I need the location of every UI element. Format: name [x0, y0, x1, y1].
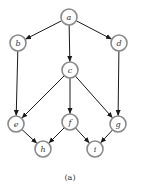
edge-f-h [49, 128, 64, 143]
node-label: d [116, 39, 121, 48]
node-d: d [111, 35, 127, 51]
node-label: e [14, 120, 19, 129]
node-c: c [62, 62, 78, 78]
node-label: b [15, 39, 20, 48]
edge-g-i [101, 130, 113, 143]
node-f: f [62, 114, 78, 130]
node-e: e [8, 116, 24, 132]
node-b: b [10, 35, 26, 51]
nodes-layer: abdcefghi [8, 9, 127, 157]
edge-a-c [69, 25, 70, 62]
dag-diagram: abdcefghi (a) [0, 0, 141, 186]
node-h: h [35, 141, 51, 157]
node-label: c [68, 66, 73, 75]
node-label: a [67, 13, 72, 22]
node-i: i [87, 141, 103, 157]
node-label: h [40, 145, 45, 154]
node-g: g [110, 116, 126, 132]
figure-caption: (a) [64, 173, 75, 182]
edge-a-d [76, 21, 111, 39]
diagram-svg: abdcefghi (a) [0, 0, 141, 186]
edge-e-h [22, 129, 37, 143]
edge-a-b [26, 21, 62, 40]
node-label: g [115, 120, 120, 129]
edge-b-e [16, 51, 18, 116]
node-label: i [94, 145, 97, 154]
edge-c-g [75, 76, 112, 118]
edge-c-e [22, 76, 64, 118]
node-a: a [61, 9, 77, 25]
edge-d-g [118, 51, 119, 116]
edge-f-i [75, 128, 89, 143]
